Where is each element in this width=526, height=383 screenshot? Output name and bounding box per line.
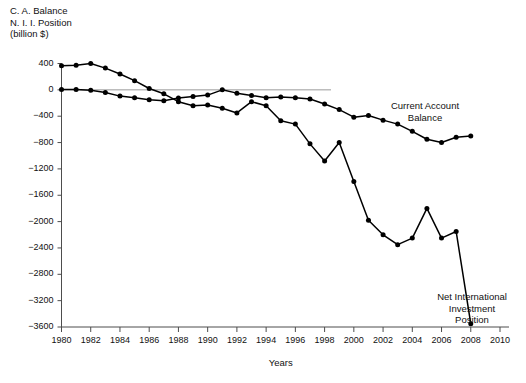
series-marker-0 [234, 110, 239, 115]
x-tick-label: 2000 [338, 335, 370, 345]
x-tick-label: 1986 [133, 335, 165, 345]
x-tick-label: 1984 [104, 335, 136, 345]
series-marker-1 [278, 95, 283, 100]
series-marker-1 [468, 133, 473, 138]
series-marker-0 [293, 122, 298, 127]
annotation-net-international-investment-position: Net International Investment Position [424, 291, 520, 326]
series-marker-1 [264, 95, 269, 100]
series-marker-0 [205, 103, 210, 108]
series-marker-0 [74, 63, 79, 68]
series-marker-0 [439, 236, 444, 241]
y-tick-label: 0 [0, 84, 54, 94]
x-tick-label: 2010 [484, 335, 516, 345]
x-tick-label: 1992 [221, 335, 253, 345]
series-marker-0 [410, 236, 415, 241]
x-tick-label: 1990 [192, 335, 224, 345]
series-marker-0 [322, 159, 327, 164]
x-tick-label: 1994 [250, 335, 282, 345]
series-marker-1 [147, 97, 152, 102]
annotation-current-account-balance: Current Account Balance [370, 100, 480, 123]
series-marker-1 [337, 107, 342, 112]
series-marker-1 [234, 91, 239, 96]
plot-canvas [0, 0, 526, 383]
series-marker-1 [88, 88, 93, 93]
series-marker-0 [191, 103, 196, 108]
series-marker-0 [117, 72, 122, 77]
y-tick-label: −2400 [0, 242, 54, 252]
x-tick-label: 1988 [162, 335, 194, 345]
x-tick-label: 2002 [367, 335, 399, 345]
series-marker-0 [132, 78, 137, 83]
series-marker-1 [191, 94, 196, 99]
series-marker-1 [410, 129, 415, 134]
series-marker-0 [88, 61, 93, 66]
series-marker-1 [307, 97, 312, 102]
chart-figure: C. A. Balance N. I. I. Position (billion… [0, 0, 526, 383]
y-tick-label: 400 [0, 58, 54, 68]
series-marker-0 [424, 206, 429, 211]
series-marker-1 [322, 102, 327, 107]
series-marker-1 [293, 95, 298, 100]
series-marker-1 [74, 87, 79, 92]
series-marker-1 [161, 98, 166, 103]
series-marker-1 [59, 87, 64, 92]
x-axis-title: Years [231, 357, 331, 368]
series-marker-1 [439, 140, 444, 145]
series-marker-0 [147, 86, 152, 91]
series-marker-0 [161, 91, 166, 96]
series-marker-0 [337, 140, 342, 145]
y-tick-label: −800 [0, 137, 54, 147]
series-marker-0 [366, 218, 371, 223]
series-marker-0 [307, 141, 312, 146]
series-marker-1 [424, 137, 429, 142]
series-marker-0 [249, 99, 254, 104]
series-marker-1 [220, 87, 225, 92]
y-tick-label: −1600 [0, 189, 54, 199]
y-tick-label: −3600 [0, 321, 54, 331]
series-marker-0 [381, 232, 386, 237]
y-tick-label: −1200 [0, 163, 54, 173]
x-tick-label: 1996 [279, 335, 311, 345]
series-marker-0 [454, 229, 459, 234]
x-tick-label: 1982 [75, 335, 107, 345]
x-tick-label: 2008 [455, 335, 487, 345]
series-marker-1 [176, 96, 181, 101]
series-marker-1 [117, 94, 122, 99]
series-marker-0 [59, 63, 64, 68]
series-marker-1 [249, 93, 254, 98]
series-marker-1 [205, 93, 210, 98]
y-tick-label: −400 [0, 110, 54, 120]
y-tick-label: −2800 [0, 268, 54, 278]
series-marker-0 [351, 179, 356, 184]
series-marker-1 [132, 95, 137, 100]
x-tick-label: 1998 [309, 335, 341, 345]
x-tick-label: 2006 [426, 335, 458, 345]
x-tick-label: 2004 [396, 335, 428, 345]
series-marker-0 [278, 118, 283, 123]
x-tick-label: 1980 [46, 335, 78, 345]
series-marker-0 [264, 103, 269, 108]
series-marker-0 [103, 66, 108, 71]
y-tick-label: −2000 [0, 216, 54, 226]
series-marker-0 [395, 242, 400, 247]
series-marker-0 [220, 106, 225, 111]
series-marker-1 [103, 90, 108, 95]
series-marker-1 [351, 115, 356, 120]
y-tick-label: −3200 [0, 295, 54, 305]
series-marker-1 [454, 135, 459, 140]
